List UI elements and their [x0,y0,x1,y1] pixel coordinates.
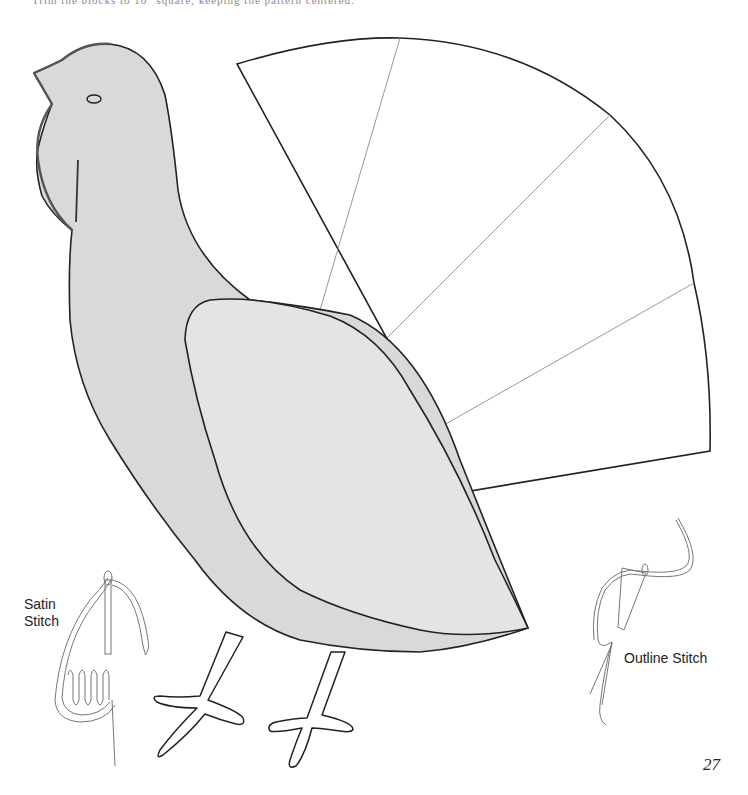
page-number: 27 [703,755,720,775]
satin-label-line-2: Stitch [24,613,59,630]
outline-stitch-label: Outline Stitch [624,650,707,667]
satin-label-line-1: Satin [24,596,59,613]
turkey-pattern-illustration [0,0,748,795]
outline-stitch-illustration [590,518,693,725]
satin-stitch-illustration [55,571,149,766]
satin-stitch-label: Satin Stitch [24,596,59,630]
turkey-legs [154,632,353,767]
